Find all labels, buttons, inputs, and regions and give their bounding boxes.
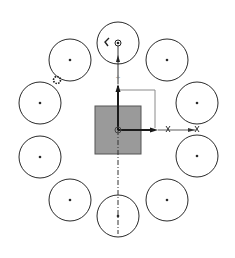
- y-axis-small-mark: +: [115, 73, 120, 80]
- tangent-constraint-icon[interactable]: [54, 77, 61, 84]
- circle-center-point[interactable]: [39, 156, 42, 159]
- x-axis-arrowhead-outer: [188, 128, 195, 132]
- angle-mark-icon: [105, 38, 109, 46]
- circle-center-point[interactable]: [166, 59, 169, 62]
- circle-center-point[interactable]: [117, 215, 120, 218]
- circle-center-point[interactable]: [196, 102, 199, 105]
- circle-center-point[interactable]: [196, 155, 199, 158]
- circle-center-point[interactable]: [39, 102, 42, 105]
- sketch-canvas[interactable]: +: [0, 0, 235, 258]
- circle-center-point[interactable]: [69, 199, 72, 202]
- y-axis-arrowhead: [116, 84, 121, 92]
- endpoint-dot: [117, 42, 120, 45]
- circle-center-point[interactable]: [69, 59, 72, 62]
- x-mark-icon: [166, 126, 170, 132]
- x-mark-icon: [195, 126, 199, 132]
- circle-center-point[interactable]: [166, 199, 169, 202]
- x-axis-arrowhead: [150, 128, 158, 133]
